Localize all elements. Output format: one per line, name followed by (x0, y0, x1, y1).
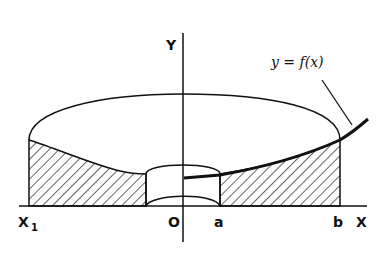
origin-label: O (168, 214, 180, 230)
outer-ellipse-rim (29, 94, 340, 140)
b-label: b (333, 214, 343, 230)
left-hatched-region (29, 140, 146, 206)
x1-label: X (18, 214, 29, 230)
diagram-canvas: Y X O X 1 a b y = f(x) (0, 0, 385, 253)
y-axis-label: Y (165, 37, 177, 53)
x-axis-label: X (356, 214, 367, 230)
a-label: a (214, 214, 223, 230)
x1-subscript: 1 (31, 222, 38, 233)
curve-label: y = f(x) (270, 54, 324, 70)
